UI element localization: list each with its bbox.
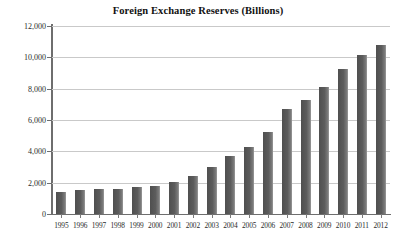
bar-2009 xyxy=(319,87,329,214)
chart-title: Foreign Exchange Reserves (Billions) xyxy=(0,5,396,16)
bar-1996 xyxy=(75,190,85,214)
x-tick-mark xyxy=(174,214,175,218)
bar-2002 xyxy=(188,176,198,214)
y-tick-label: 4,000 xyxy=(0,147,46,156)
bar-1999 xyxy=(132,187,142,214)
y-tick-label: 6,000 xyxy=(0,116,46,125)
y-tick-label: 10,000 xyxy=(0,53,46,62)
bar-1995 xyxy=(56,192,66,214)
x-tick-mark xyxy=(230,214,231,218)
bar-2007 xyxy=(282,109,292,214)
bar-2005 xyxy=(244,147,254,214)
x-tick-mark xyxy=(306,214,307,218)
x-tick-mark xyxy=(99,214,100,218)
x-tick-label-2012: 2012 xyxy=(366,221,396,230)
bar-2011 xyxy=(357,55,367,214)
bar-1997 xyxy=(94,189,104,214)
bar-2004 xyxy=(225,156,235,214)
x-tick-mark xyxy=(381,214,382,218)
x-tick-mark xyxy=(137,214,138,218)
x-tick-mark xyxy=(249,214,250,218)
x-tick-mark xyxy=(324,214,325,218)
x-tick-mark xyxy=(268,214,269,218)
plot-area xyxy=(52,26,390,214)
x-tick-mark xyxy=(61,214,62,218)
x-tick-mark xyxy=(193,214,194,218)
bar-1998 xyxy=(113,189,123,214)
bar-2008 xyxy=(301,100,311,214)
gridline xyxy=(52,26,390,27)
y-tick-mark xyxy=(47,214,52,215)
bar-chart: Foreign Exchange Reserves (Billions) 02,… xyxy=(0,0,396,245)
y-tick-label: 0 xyxy=(0,210,46,219)
bar-2003 xyxy=(207,167,217,214)
x-tick-mark xyxy=(80,214,81,218)
y-tick-label: 2,000 xyxy=(0,178,46,187)
bar-2000 xyxy=(150,186,160,214)
x-tick-mark xyxy=(287,214,288,218)
bar-2012 xyxy=(376,45,386,214)
x-tick-mark xyxy=(155,214,156,218)
x-tick-mark xyxy=(362,214,363,218)
gridline xyxy=(52,57,390,58)
x-tick-mark xyxy=(212,214,213,218)
y-tick-label: 12,000 xyxy=(0,22,46,31)
bar-2010 xyxy=(338,69,348,214)
x-tick-mark xyxy=(118,214,119,218)
bar-2006 xyxy=(263,132,273,214)
y-tick-label: 8,000 xyxy=(0,84,46,93)
x-tick-mark xyxy=(343,214,344,218)
bar-2001 xyxy=(169,182,179,214)
